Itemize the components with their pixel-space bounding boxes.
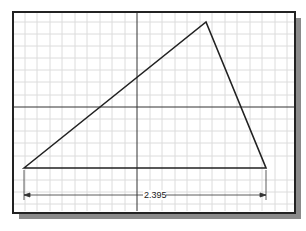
- drawing-canvas: 2.395: [0, 0, 306, 231]
- grid: [14, 13, 294, 211]
- arrow-right-icon: [260, 193, 266, 197]
- axes: [14, 13, 294, 211]
- dimension-label[interactable]: 2.395: [144, 190, 167, 200]
